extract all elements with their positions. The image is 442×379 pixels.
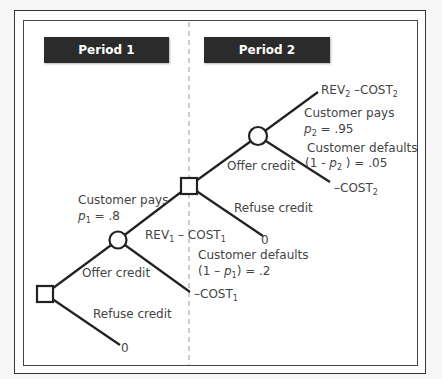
c1-pays-payoff: REV1 – COST1 xyxy=(145,228,226,244)
d2-refuse-label: Refuse credit xyxy=(234,201,313,215)
d2-refuse-payoff: 0 xyxy=(261,233,269,247)
decision-node-1 xyxy=(37,286,53,302)
c1-defaults-payoff: –COST1 xyxy=(194,287,238,303)
d1-refuse-payoff: 0 xyxy=(121,341,129,355)
c1-defaults-label: Customer defaults xyxy=(198,248,309,262)
d1-refuse-label: Refuse credit xyxy=(93,307,172,321)
c2-defaults-payoff: –COST2 xyxy=(334,181,378,197)
c2-defaults-prob: (1 - p2 ) = .05 xyxy=(305,156,387,172)
decision-tree: Offer credit Refuse credit 0 Customer pa… xyxy=(0,0,442,379)
c2-pays-label: Customer pays xyxy=(304,106,394,120)
c2-defaults-label: Customer defaults xyxy=(307,141,418,155)
decision-node-2 xyxy=(181,178,197,194)
c1-defaults-prob: (1 – p1) = .2 xyxy=(198,264,271,280)
c1-pays-label: Customer pays xyxy=(78,193,168,207)
c2-pays-payoff: REV2 –COST2 xyxy=(321,83,398,99)
chance-node-1 xyxy=(110,232,127,249)
c2-pays-prob: p2 = .95 xyxy=(303,122,354,138)
d1-offer-label: Offer credit xyxy=(82,266,150,280)
chance-node-2 xyxy=(249,127,267,145)
d2-offer-label: Offer credit xyxy=(227,159,295,173)
c1-pays-prob: p1 = .8 xyxy=(77,209,120,225)
